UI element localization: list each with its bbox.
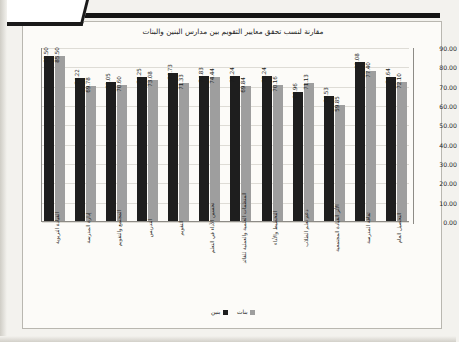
- y-axis-tick-label: 10.00: [439, 199, 457, 206]
- bar-value-label: 85.50: [54, 47, 60, 63]
- bar: 72.05: [106, 82, 116, 221]
- gridline: [42, 222, 409, 223]
- x-axis-tick: التقويم: [168, 225, 189, 307]
- chart-title: مقارنة لنسب تحقق معايير التقويم بين مدار…: [23, 27, 443, 36]
- bar-value-label: 70.16: [272, 77, 278, 93]
- bar-group: 76.7371.33: [168, 48, 189, 221]
- bar: 69.78: [86, 86, 96, 221]
- y-axis-tick-label: 80.00: [439, 64, 457, 71]
- bar: 77.40: [366, 71, 376, 221]
- bar: 72.10: [397, 82, 407, 221]
- bar-value-label: 66.96: [292, 83, 298, 99]
- y-axis-tick-label: 60.00: [439, 103, 457, 110]
- y-axis-tick-label: 0.00: [443, 219, 457, 226]
- bar: 76.73: [168, 73, 178, 221]
- bar-value-label: 72.05: [105, 73, 111, 89]
- bar-value-label: 76.73: [167, 64, 173, 80]
- plot-area: 85.5085.5074.2269.7872.0570.6074.2573.08…: [41, 48, 409, 222]
- bar-value-label: 64.53: [323, 87, 329, 103]
- y-axis-tick-label: 70.00: [439, 83, 457, 90]
- bar: 66.96: [293, 92, 303, 221]
- bar: 70.60: [117, 85, 127, 221]
- bar-value-label: 69.84: [240, 77, 246, 93]
- bar-value-label: 85.50: [43, 47, 49, 63]
- bar-value-label: 59.85: [334, 97, 340, 113]
- x-axis-tick-label: تحسين الأداء في التعلم: [209, 203, 215, 254]
- bar-value-label: 74.22: [74, 69, 80, 85]
- bar-group: 82.0877.40: [355, 48, 376, 221]
- scan-edge-left: [0, 0, 7, 342]
- y-axis-tick-label: 30.00: [439, 161, 457, 168]
- bar-group: 72.0570.60: [106, 48, 127, 221]
- bar-group: 75.2470.16: [262, 48, 283, 221]
- x-axis-tick-label: التدريس: [147, 219, 153, 237]
- bar: 71.33: [179, 83, 189, 221]
- x-axis-tick-label: التحصيل العام: [396, 213, 402, 244]
- x-axis-tick-label: الأثر القيادة المجتمعية: [334, 204, 340, 252]
- x-axis-tick: المنظمات العلمية والعملية للقائد: [230, 225, 251, 307]
- bar-value-label: 71.13: [303, 75, 309, 91]
- y-axis-tick-label: 20.00: [439, 180, 457, 187]
- bar-group: 74.6472.10: [386, 48, 407, 221]
- bar-value-label: 74.44: [209, 68, 215, 84]
- bar-value-label: 69.78: [85, 77, 91, 93]
- legend-item: بنات: [237, 309, 255, 315]
- bar-value-label: 77.40: [365, 63, 371, 79]
- x-axis-tick-label: المنظمات العلمية والعملية للقائد: [241, 192, 247, 263]
- x-axis-tick-label: إدارة المدرسة: [85, 212, 91, 243]
- chart-legend: بناتبنين: [23, 309, 443, 315]
- x-axis-tick-label: المجتمع والتقويم: [116, 210, 122, 246]
- y-axis: 90.0080.0070.0060.0050.0040.0030.0020.00…: [413, 42, 459, 228]
- bar-value-label: 73.08: [147, 71, 153, 87]
- bar: 74.25: [137, 77, 147, 221]
- x-axis-tick-label: دعم تعلم الطلاب: [303, 209, 309, 246]
- y-axis-line: [413, 48, 414, 224]
- bar: 64.53: [324, 96, 334, 221]
- bar: 74.64: [386, 77, 396, 221]
- legend-label: بنين: [211, 309, 221, 315]
- x-axis-tick: الأثر القيادة المجتمعية: [324, 225, 345, 307]
- legend-label: بنات: [237, 309, 248, 315]
- x-axis-tick: التخطيط والأداء: [261, 225, 282, 307]
- page-fold-corner: [0, 0, 89, 26]
- x-axis-tick: دعم تعلم الطلاب: [292, 225, 313, 307]
- bar-value-label: 74.83: [198, 68, 204, 84]
- bar-value-label: 70.60: [116, 76, 122, 92]
- bar-groups: 85.5085.5074.2269.7872.0570.6074.2573.08…: [42, 48, 409, 221]
- y-axis-tick-label: 90.00: [439, 45, 457, 52]
- chart-frame: مقارنة لنسب تحقق معايير التقويم بين مدار…: [22, 21, 442, 329]
- legend-item: بنين: [211, 309, 228, 315]
- x-axis-tick: التحصيل العام: [386, 225, 407, 307]
- x-axis-tick: التدريس: [137, 225, 158, 307]
- bar-group: 74.2573.08: [137, 48, 158, 221]
- bar: 71.13: [304, 83, 314, 221]
- bar-group: 74.8374.44: [199, 48, 220, 221]
- bar-value-label: 72.10: [396, 73, 402, 89]
- page-fold-shadow: [70, 13, 440, 18]
- bar: 75.24: [262, 76, 272, 221]
- bar-value-label: 75.24: [261, 67, 267, 83]
- legend-swatch: [250, 310, 255, 315]
- scan-edge-bottom: [0, 336, 456, 342]
- y-axis-tick-label: 50.00: [439, 122, 457, 129]
- bar: 74.83: [199, 76, 209, 221]
- bar-group: 74.2269.78: [75, 48, 96, 221]
- x-axis-tick: القيادة التربوية: [43, 225, 64, 307]
- x-axis-category-labels: القيادة التربويةإدارة المدرسةالمجتمع وال…: [41, 225, 409, 307]
- bar-value-label: 74.25: [136, 69, 142, 85]
- bar: 85.50: [44, 56, 54, 221]
- bar-group: 85.5085.50: [44, 48, 65, 221]
- x-axis-tick: المجتمع والتقويم: [105, 225, 126, 307]
- x-axis-tick: إدارة المدرسة: [74, 225, 95, 307]
- legend-swatch: [223, 310, 228, 315]
- x-axis-tick: ثقافة المدرسة: [355, 225, 376, 307]
- bar: 74.22: [75, 78, 85, 221]
- bar-group: 64.5359.85: [324, 48, 345, 221]
- bar-value-label: 71.33: [178, 74, 184, 90]
- bar: 82.08: [355, 62, 365, 221]
- bar: 70.16: [273, 85, 283, 221]
- x-axis-tick-label: القيادة التربوية: [54, 212, 60, 244]
- bar: 85.50: [55, 56, 65, 221]
- bar-value-label: 74.64: [385, 68, 391, 84]
- bar: 74.44: [210, 77, 220, 221]
